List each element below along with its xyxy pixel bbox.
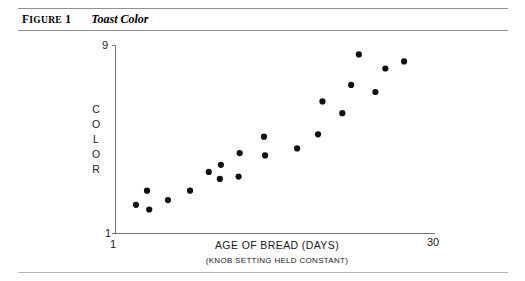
y-axis-title-letter: C bbox=[92, 103, 100, 115]
y-axis-title-letter: R bbox=[92, 163, 100, 175]
data-point bbox=[348, 82, 354, 88]
data-point bbox=[294, 145, 300, 151]
y-axis-title-letter: O bbox=[92, 148, 100, 160]
data-point bbox=[217, 176, 223, 182]
y-axis-title: C O L O R bbox=[92, 103, 100, 175]
data-point bbox=[237, 150, 243, 156]
data-point bbox=[356, 51, 362, 57]
data-point bbox=[235, 174, 241, 180]
data-point bbox=[218, 162, 224, 168]
data-point bbox=[382, 65, 388, 71]
data-point bbox=[372, 89, 378, 95]
x-axis-max-label: 30 bbox=[427, 236, 439, 248]
data-point bbox=[315, 131, 321, 137]
x-axis-min-label: 1 bbox=[110, 238, 116, 250]
data-point-group bbox=[133, 51, 407, 212]
x-axis-subtitle: (KNOB SETTING HELD CONSTANT) bbox=[206, 256, 349, 265]
y-axis-title-letter: O bbox=[92, 118, 100, 130]
scatter-plot: 9 1 1 30 AGE OF BREAD (DAYS) (KNOB SETTI… bbox=[0, 0, 525, 281]
y-axis-max-label: 9 bbox=[102, 39, 108, 51]
data-point bbox=[401, 58, 407, 64]
x-axis-title: AGE OF BREAD (DAYS) bbox=[215, 239, 339, 251]
data-point bbox=[261, 134, 267, 140]
data-point bbox=[262, 152, 268, 158]
data-point bbox=[165, 197, 171, 203]
data-point bbox=[146, 206, 152, 212]
data-point bbox=[187, 188, 193, 194]
data-point bbox=[206, 169, 212, 175]
data-point bbox=[133, 202, 139, 208]
y-axis-title-letter: L bbox=[93, 133, 99, 145]
data-point bbox=[339, 110, 345, 116]
data-point bbox=[319, 98, 325, 104]
data-point bbox=[144, 188, 150, 194]
